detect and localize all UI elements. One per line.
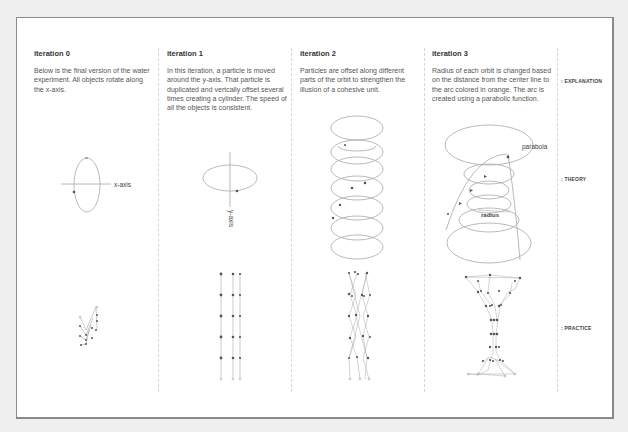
iteration-3-practice-render xyxy=(0,0,628,432)
